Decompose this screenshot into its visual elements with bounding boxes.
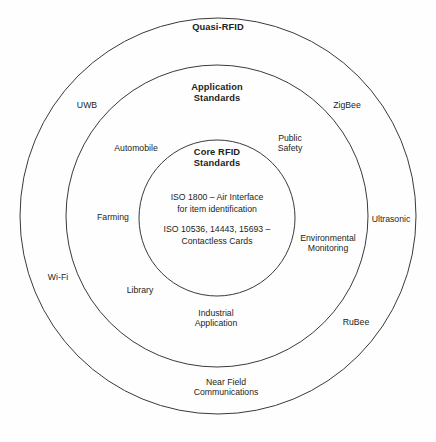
- middle-label-automobile: Automobile: [114, 143, 157, 153]
- ring-circles-svg: [0, 0, 436, 442]
- outer-label-near-field-communications: Near Field Communications: [194, 377, 259, 397]
- middle-label-public-safety: Public Safety: [278, 133, 303, 153]
- ring-title-quasi-rfid: Quasi-RFID: [192, 22, 244, 33]
- core-standard-iso-1800: ISO 1800 – Air Interface for item identi…: [171, 191, 264, 215]
- outer-label-rubee: RuBee: [343, 317, 370, 327]
- outer-label-zigbee: ZigBee: [333, 100, 361, 110]
- middle-label-industrial-application: Industrial Application: [195, 308, 238, 328]
- ring-title-core-rfid-standards: Core RFID Standards: [194, 147, 240, 169]
- outer-label-uwb: UWB: [77, 100, 97, 110]
- outer-label-ultrasonic: Ultrasonic: [372, 214, 411, 224]
- ring-title-application-standards: Application Standards: [191, 82, 243, 104]
- rfid-concentric-diagram: Quasi-RFID Application Standards Core RF…: [0, 0, 436, 442]
- core-standard-contactless-cards: ISO 10536, 14443, 15693 – Contactless Ca…: [164, 223, 271, 247]
- middle-label-environmental-monitoring: Environmental Monitoring: [300, 233, 356, 253]
- middle-label-library: Library: [127, 285, 154, 295]
- outer-label-wifi: Wi-Fi: [48, 272, 68, 282]
- middle-label-farming: Farming: [97, 212, 129, 222]
